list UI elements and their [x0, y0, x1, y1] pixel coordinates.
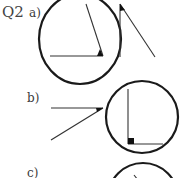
part-a-standalone-diagonal — [120, 4, 155, 57]
part-a-arm-diagonal — [86, 4, 103, 56]
part-a-standalone-vertex-marker — [120, 4, 125, 11]
part-a-circle — [39, 0, 121, 84]
part-b-right-angle-marker — [128, 138, 134, 144]
part-b-circle — [106, 81, 178, 153]
part-b-standalone-vertex-marker — [96, 108, 103, 112]
part-b-figure — [51, 81, 178, 153]
part-c-figure — [108, 163, 178, 178]
angles-diagram — [0, 0, 180, 178]
part-c-arm — [134, 175, 142, 178]
part-a-figure — [39, 0, 155, 84]
part-b-standalone-diagonal — [51, 108, 103, 140]
part-c-circle — [108, 163, 178, 178]
